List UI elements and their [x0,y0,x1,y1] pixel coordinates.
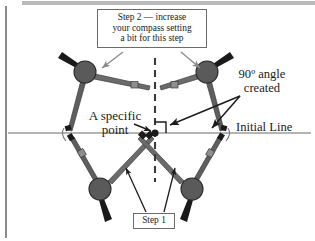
compass-hub [74,61,96,83]
top-band [22,1,315,5]
label-a-specific-point-line-1: A specific [79,109,151,123]
label-90-degree-angle: 90º angle created [216,68,308,95]
callout-step-2: Step 2 — increase your compass setting a… [97,9,207,48]
compass-hub [181,178,203,200]
callout-step-2-line-2: your compass setting [100,23,204,34]
label-initial-line: Initial Line [236,121,292,135]
label-90-degree-angle-line-2: created [216,82,308,96]
compass-hub [196,61,218,83]
compass-arm-joint [131,82,138,89]
figure-page: Step 2 — increase your compass setting a… [0,0,315,241]
specific-point-dot [151,129,158,136]
label-a-specific-point: A specific point [79,109,151,137]
compass-arm-joint [171,82,178,89]
label-a-specific-point-line-2: point [79,123,151,137]
compass-hub [89,178,111,200]
callout-step-1-label: Step 1 [136,215,172,226]
callout-step-1: Step 1 [133,213,175,229]
callout-step-2-line-3: a bit for this step [100,33,204,44]
callout-step-2-line-1: Step 2 — increase [100,12,204,23]
label-90-degree-angle-line-1: 90º angle [216,68,308,82]
